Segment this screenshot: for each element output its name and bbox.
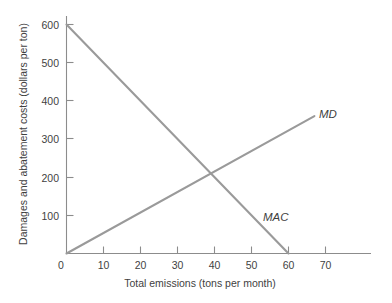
x-tick-label-30: 30 (172, 259, 184, 271)
x-axis-title: Total emissions (tons per month) (124, 277, 276, 289)
x-tick-label-70: 70 (320, 259, 332, 271)
series-label-md: MD (319, 108, 337, 120)
y-tick-labels: 600 500 400 300 200 100 (41, 19, 59, 222)
x-tick-label-60: 60 (283, 259, 295, 271)
x-tick-label-50: 50 (246, 259, 258, 271)
y-tick-marks (67, 25, 74, 216)
x-tick-marks (104, 247, 326, 254)
series-label-mac: MAC (263, 211, 289, 223)
y-axis-title: Damages and abatement costs (dollars per… (17, 23, 29, 245)
chart-figure: 600 500 400 300 200 100 0 10 20 30 40 50… (0, 0, 392, 303)
x-tick-labels: 0 10 20 30 40 50 60 70 (58, 259, 331, 271)
y-tick-label-400: 400 (41, 95, 59, 107)
series-line-mac (67, 25, 289, 254)
chart-plot-area: 600 500 400 300 200 100 0 10 20 30 40 50… (0, 0, 392, 303)
series-line-md (67, 116, 315, 253)
x-tick-label-0: 0 (58, 259, 64, 271)
y-tick-label-100: 100 (41, 210, 59, 222)
x-tick-label-20: 20 (135, 259, 147, 271)
axes-group (67, 16, 372, 254)
y-tick-label-300: 300 (41, 133, 59, 145)
y-tick-label-600: 600 (41, 19, 59, 31)
y-tick-label-200: 200 (41, 172, 59, 184)
x-tick-label-10: 10 (98, 259, 110, 271)
y-tick-label-500: 500 (41, 57, 59, 69)
x-tick-label-40: 40 (209, 259, 221, 271)
